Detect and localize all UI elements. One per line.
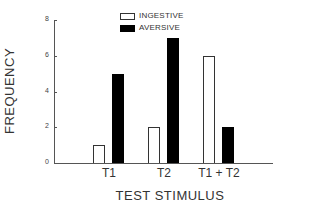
y-tick xyxy=(54,92,57,93)
y-tick xyxy=(54,163,57,164)
legend-label-ingestive: INGESTIVE xyxy=(139,11,183,20)
bar-aversive-3 xyxy=(222,127,234,163)
bar-aversive-1 xyxy=(112,74,124,163)
y-tick-label: 2 xyxy=(33,122,49,129)
legend-swatch-ingestive xyxy=(120,13,135,20)
x-category-label: T1 xyxy=(79,166,139,180)
y-tick-label: 6 xyxy=(33,51,49,58)
x-category-label: T1 + T2 xyxy=(189,166,249,180)
x-category-label: T2 xyxy=(134,166,194,180)
bar-ingestive-2 xyxy=(148,127,160,163)
y-tick-label: 4 xyxy=(33,87,49,94)
y-tick xyxy=(54,127,57,128)
y-tick-label: 0 xyxy=(33,158,49,165)
x-axis-label: TEST STIMULUS xyxy=(95,188,245,203)
y-tick-label: 8 xyxy=(33,15,49,22)
legend-label-aversive: AVERSIVE xyxy=(139,23,180,32)
bar-ingestive-3 xyxy=(203,56,215,163)
legend-swatch-aversive xyxy=(120,25,135,32)
x-axis-line xyxy=(54,163,273,164)
bar-ingestive-1 xyxy=(93,145,105,163)
bar-aversive-2 xyxy=(167,38,179,163)
y-tick xyxy=(54,20,57,21)
y-tick xyxy=(54,56,57,57)
